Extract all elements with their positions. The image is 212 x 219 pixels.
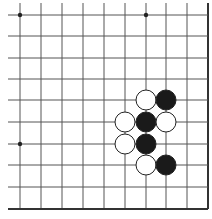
white-stone <box>156 112 176 132</box>
white-stone <box>136 90 156 110</box>
black-stone <box>156 155 176 175</box>
star-point-icon <box>18 142 22 146</box>
go-board[interactable] <box>0 0 212 219</box>
board-grid <box>8 3 208 209</box>
white-stone <box>136 155 156 175</box>
star-point-icon <box>144 13 148 17</box>
star-point-icon <box>18 13 22 17</box>
black-stone <box>136 112 156 132</box>
white-stone <box>115 134 135 154</box>
black-stone <box>136 134 156 154</box>
white-stone <box>115 112 135 132</box>
black-stone <box>156 90 176 110</box>
